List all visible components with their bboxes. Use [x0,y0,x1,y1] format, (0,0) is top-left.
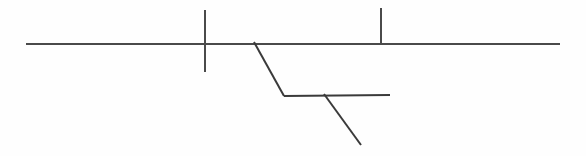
line-offset-horizon [284,95,390,96]
background-rect [0,0,586,156]
line-diagram-svg [0,0,586,156]
figure-canvas [0,0,586,156]
